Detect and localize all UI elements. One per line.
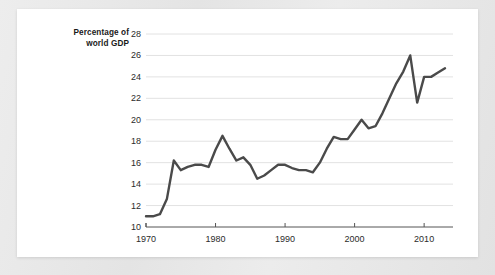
- y-tick-label: 22: [119, 93, 141, 103]
- x-tick-label: 1970: [126, 234, 166, 244]
- y-tick-label: 26: [119, 50, 141, 60]
- y-tick-label: 10: [119, 222, 141, 232]
- y-tick-label: 18: [119, 136, 141, 146]
- y-tick-label: 14: [119, 179, 141, 189]
- y-tick-label: 12: [119, 201, 141, 211]
- x-axis-ticks: [146, 223, 424, 227]
- gridlines: [146, 34, 453, 206]
- x-tick-label: 2010: [404, 234, 444, 244]
- x-tick-label: 2000: [335, 234, 375, 244]
- x-tick-label: 1980: [196, 234, 236, 244]
- data-series-line: [146, 55, 445, 216]
- y-tick-label: 28: [119, 29, 141, 39]
- y-tick-label: 16: [119, 158, 141, 168]
- line-chart: Percentage of world GDP 1012141618202224…: [17, 9, 478, 257]
- y-tick-label: 20: [119, 115, 141, 125]
- chart-plot-svg: [17, 9, 478, 257]
- x-tick-label: 1990: [265, 234, 305, 244]
- chart-card: Percentage of world GDP 1012141618202224…: [17, 9, 478, 257]
- y-tick-label: 24: [119, 72, 141, 82]
